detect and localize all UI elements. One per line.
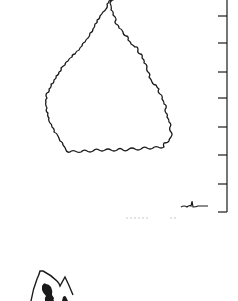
inset-leaf-sketch <box>31 271 73 301</box>
leaf-outline <box>46 0 172 152</box>
leaf-drawing <box>0 0 238 301</box>
leaf-base-trail <box>181 201 208 207</box>
scale-bar <box>218 0 227 212</box>
